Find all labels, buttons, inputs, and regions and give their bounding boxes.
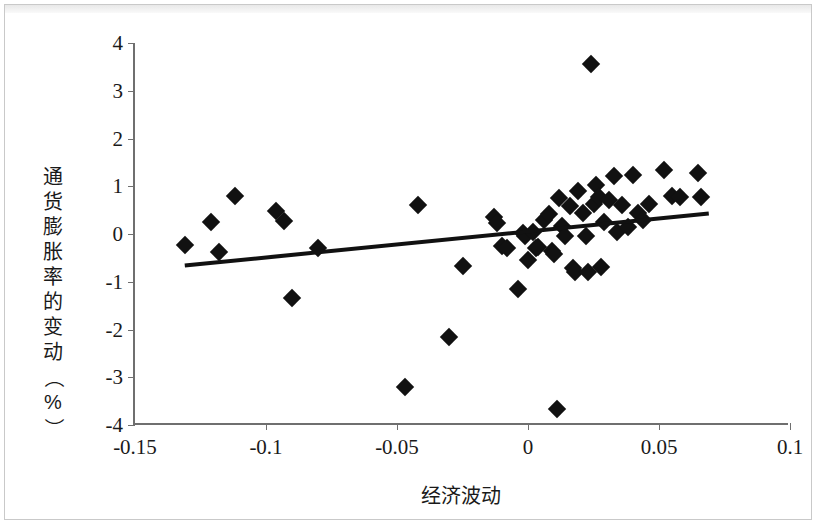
y-axis-tick [128,377,135,378]
y-axis-tick-label: 3 [77,78,123,103]
y-axis-tick [128,43,135,44]
trend-line-segment [185,213,709,265]
y-axis-tick-label: -2 [77,317,123,342]
y-axis-tick [128,282,135,283]
plot-area: 43210-1-2-3-4 -0.15-0.1-0.0500.050.1 [133,43,788,425]
y-axis-title-char: 动 [38,340,68,365]
page-scan-smudge [5,5,811,13]
y-axis-title: 通货膨胀率的变动（%） [38,165,68,440]
y-axis-tick-label: -4 [77,413,123,438]
y-axis-tick [128,330,135,331]
y-axis-tick-label: 4 [77,31,123,56]
y-axis-tick-label: 1 [77,174,123,199]
y-axis-tick [128,91,135,92]
y-axis-tick [128,186,135,187]
figure-container: 通货膨胀率的变动（%） 43210-1-2-3-4 -0.15-0.1-0.05… [0,0,818,526]
y-axis-tick-label: -1 [77,269,123,294]
x-axis-tick-label: 0.1 [777,435,803,460]
y-axis-title-char: 胀 [38,240,68,265]
y-axis-title-char: （ [41,363,66,393]
y-axis-title-char: % [38,390,68,415]
x-axis-tick-label: 0 [523,435,534,460]
y-axis-tick-label: 0 [77,222,123,247]
y-axis-title-char: ） [41,413,66,443]
x-axis-tick-label: -0.15 [113,435,157,460]
y-axis-tick-label: -3 [77,365,123,390]
x-axis-tick-label: -0.05 [375,435,419,460]
y-axis-title-char: 率 [38,265,68,290]
x-axis-tick-label: 0.05 [641,435,678,460]
x-axis-title: 经济波动 [133,480,788,509]
y-axis-tick [128,139,135,140]
y-axis-title-char: 通 [38,165,68,190]
trend-line [135,43,790,425]
y-axis-tick [128,234,135,235]
y-axis-tick [128,425,135,426]
y-axis-title-char: 货 [38,190,68,215]
y-axis-title-char: 变 [38,315,68,340]
y-axis-tick-label: 2 [77,126,123,151]
x-axis-tick-label: -0.1 [249,435,282,460]
x-axis-tick [790,423,791,430]
y-axis-title-char: 膨 [38,215,68,240]
y-axis-title-char: 的 [38,290,68,315]
